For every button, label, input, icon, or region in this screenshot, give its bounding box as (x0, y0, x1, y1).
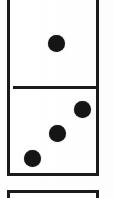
domino-cell-lower (20, 83, 106, 170)
main-domino-tile (7, 0, 99, 176)
domino-photo: 1 | 3 Close-up of a domino tile photogra… (0, 0, 113, 198)
pip (24, 150, 41, 167)
pip (48, 35, 65, 52)
pip (49, 125, 66, 142)
domino-cell-upper (20, 0, 106, 83)
pip (74, 101, 91, 118)
next-domino-tile (7, 190, 99, 198)
